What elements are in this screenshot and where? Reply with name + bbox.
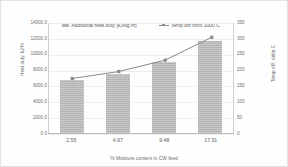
y-axis-left-tick-label: 4000.0 — [13, 100, 47, 105]
x-axis-title: % Moisture content in CW feed — [1, 157, 287, 162]
x-axis-category-label: 2.55 — [48, 138, 95, 148]
y-axis-right-tick-label: 100 — [237, 100, 267, 105]
plot-area — [48, 23, 234, 134]
y-axis-right-title: Temp diff, delta C — [272, 33, 277, 93]
y-axis-left-tick-label: 10000.0 — [13, 52, 47, 57]
y-axis-right-tick-label: 250 — [237, 52, 267, 57]
y-axis-right-tick-label: 300 — [237, 37, 267, 42]
y-axis-right-tick-label: 200 — [237, 68, 267, 73]
line-markers — [71, 36, 214, 80]
line-path — [72, 37, 212, 78]
x-axis-categories: 2.554.979.4817.31 — [48, 138, 234, 148]
y-axis-left-tick-label: 14000.0 — [13, 21, 47, 26]
x-axis-category-label: 4.97 — [95, 138, 142, 148]
gridline — [49, 134, 233, 135]
y-axis-right-tick-label: 150 — [237, 84, 267, 89]
y-axis-right-tick-label: 50 — [237, 116, 267, 121]
y-axis-left-tick-label: 2000.0 — [13, 116, 47, 121]
line-marker[interactable] — [117, 70, 120, 73]
x-axis-category-label: 17.31 — [188, 138, 235, 148]
x-axis-category-label: 9.48 — [141, 138, 188, 148]
line-marker[interactable] — [71, 77, 74, 80]
y-axis-right-tick-label: 350 — [237, 21, 267, 26]
line-marker[interactable] — [164, 59, 167, 62]
y-axis-left-tick-label: 12000.0 — [13, 37, 47, 42]
y-axis-left-tick-label: 0.0 — [13, 132, 47, 137]
chart-container: 0.02000.04000.06000.08000.010000.012000.… — [0, 0, 288, 167]
line-series — [49, 23, 235, 134]
y-axis-left-title: Heat duty, kJ/hr — [21, 29, 26, 89]
y-axis-left-tick-label: 6000.0 — [13, 84, 47, 89]
line-marker[interactable] — [210, 36, 213, 39]
y-axis-right-tick-label: 0 — [237, 132, 267, 137]
y-axis-left-tick-label: 8000.0 — [13, 68, 47, 73]
